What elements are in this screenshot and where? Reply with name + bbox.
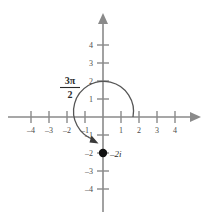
plotted-point-marker [99,149,107,157]
plotted-point-label: –2i [109,149,122,159]
x-tick-label: 3 [155,126,159,135]
x-tick-label: –3 [44,126,53,135]
x-tick-label: –4 [26,126,35,135]
y-tick-label: –4 [84,185,93,194]
y-tick-label: 3 [89,59,93,68]
x-tick-label: 1 [119,126,123,135]
complex-plane-svg: –4 –3 –2 –1 1 2 3 4 4 3 2 1 –1 –2 –3 –4 [0,0,207,221]
angle-label-numerator: 3π [65,75,76,86]
complex-plane-figure: –4 –3 –2 –1 1 2 3 4 4 3 2 1 –1 –2 –3 –4 [0,0,207,221]
y-axis-arrowhead-icon [98,13,108,24]
x-tick-label: 2 [137,126,141,135]
y-tick-label: 4 [89,41,93,50]
x-tick-label: –2 [62,126,71,135]
x-tick-label: 4 [173,126,177,135]
y-tick-label: –3 [84,167,93,176]
x-axis-arrowhead-icon [190,112,201,122]
angle-label-denominator: 2 [68,89,73,100]
y-tick-label: –2 [84,149,93,158]
y-tick-label: 1 [89,95,93,104]
